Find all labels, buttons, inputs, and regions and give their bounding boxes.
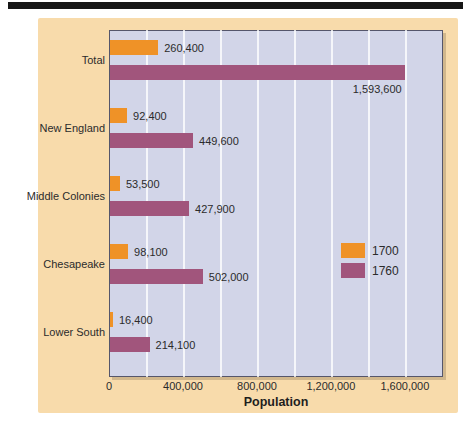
bar-1700-lower-south — [110, 312, 113, 327]
x-axis-title: Population — [109, 395, 443, 409]
bar-1700-middle-colonies — [110, 176, 120, 191]
bar-1700-total — [110, 40, 158, 55]
category-label-middle-colonies: Middle Colonies — [8, 190, 105, 202]
value-label-1700-new-england: 92,400 — [133, 110, 167, 122]
value-label-1700-middle-colonies: 53,500 — [126, 178, 160, 190]
bar-1760-total — [110, 65, 405, 80]
category-label-lower-south: Lower South — [8, 326, 105, 338]
legend-label-1700: 1700 — [372, 244, 399, 258]
value-label-1700-total: 260,400 — [164, 42, 204, 54]
bar-1760-lower-south — [110, 337, 150, 352]
value-label-1700-chesapeake: 98,100 — [134, 246, 168, 258]
x-tick-0: 0 — [106, 380, 112, 392]
value-label-1760-total: 1,593,600 — [312, 83, 402, 95]
bar-1760-chesapeake — [110, 269, 203, 284]
figure-page: 260,4001,593,600Total92,400449,600New En… — [0, 0, 469, 421]
value-label-1760-new-england: 449,600 — [199, 135, 239, 147]
legend-label-1760: 1760 — [372, 264, 399, 278]
value-label-1700-lower-south: 16,400 — [119, 314, 153, 326]
x-tick-1-200-000: 1,200,000 — [306, 380, 355, 392]
bar-1700-chesapeake — [110, 244, 128, 259]
legend-swatch-1700 — [341, 243, 365, 258]
bar-1760-new-england — [110, 133, 193, 148]
x-tick-400-000: 400,000 — [163, 380, 203, 392]
page-edge-bar — [8, 2, 463, 9]
category-label-total: Total — [8, 54, 105, 66]
gridline — [257, 30, 259, 377]
legend-entry-1700: 1700 — [341, 243, 399, 258]
legend-swatch-1760 — [341, 263, 365, 278]
category-label-new-england: New England — [8, 122, 105, 134]
value-label-1760-lower-south: 214,100 — [156, 339, 196, 351]
gridline — [405, 30, 407, 377]
value-label-1760-middle-colonies: 427,900 — [195, 203, 235, 215]
legend-entry-1760: 1760 — [341, 263, 399, 278]
gridline — [294, 30, 296, 377]
x-tick-1-600-000: 1,600,000 — [380, 380, 429, 392]
bar-1760-middle-colonies — [110, 201, 189, 216]
category-label-chesapeake: Chesapeake — [8, 258, 105, 270]
bar-1700-new-england — [110, 108, 127, 123]
x-tick-800-000: 800,000 — [237, 380, 277, 392]
legend: 17001760 — [341, 243, 399, 283]
value-label-1760-chesapeake: 502,000 — [209, 271, 249, 283]
